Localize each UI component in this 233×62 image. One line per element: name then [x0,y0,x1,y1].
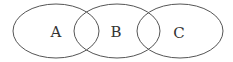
set-b-label: B [110,23,121,41]
set-a-label: A [50,23,62,41]
set-c-label: C [173,24,184,42]
venn-diagram: A B C [0,0,233,62]
